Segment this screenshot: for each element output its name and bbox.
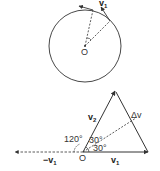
- center-label: O: [81, 47, 88, 57]
- v2-label: v2: [88, 112, 97, 123]
- delta-v-vector: [116, 92, 148, 152]
- circular-motion-figure: O v1: [49, 0, 121, 82]
- vector-triangle-figure: v2 Δv 120° 30° 30° O v1 −v1: [15, 91, 148, 166]
- neg-v1-label: −v1: [43, 155, 57, 166]
- v1-label: v1: [111, 155, 120, 166]
- radius-dashed-1: [85, 10, 93, 46]
- tangent-arrow-1: [79, 6, 93, 10]
- angle-arc-top: [87, 38, 91, 40]
- angle-120-label: 120°: [64, 134, 83, 144]
- angle-30-lower-label: 30°: [93, 143, 107, 153]
- angle-arc-120: [74, 144, 80, 152]
- origin-label: O: [79, 153, 86, 163]
- radius-dashed-2: [85, 21, 110, 46]
- delta-v-label: Δv: [131, 110, 142, 120]
- diagram-canvas: O v1 v2 Δv 120° 30° 30° O v1 −v1: [0, 0, 160, 171]
- velocity-label: v1: [99, 0, 108, 9]
